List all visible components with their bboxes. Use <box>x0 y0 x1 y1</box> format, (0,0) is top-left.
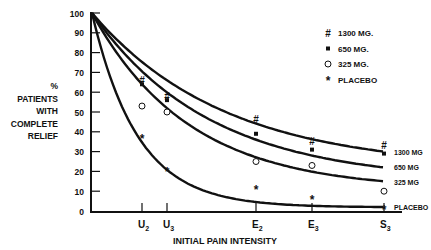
curve-labels: 1300 MG650 MG325 MGPLACEBO <box>394 149 429 211</box>
marker-asterisk: * <box>326 74 331 88</box>
marker-circle <box>139 103 145 109</box>
legend-label: 650 MG. <box>338 45 369 54</box>
marker-square <box>382 152 386 156</box>
curve-325-mg <box>92 13 383 181</box>
marker-hash: # <box>253 114 259 125</box>
svg-text:*: * <box>310 193 315 207</box>
svg-text:#: # <box>253 114 259 125</box>
svg-text:*: * <box>382 203 387 217</box>
marker-hash: # <box>309 136 315 147</box>
y-tick-label: 70 <box>75 68 85 78</box>
marker-hash: # <box>325 28 331 39</box>
pain-relief-chart: %PATIENTSWITHCOMPLETERELIEF 010203040506… <box>0 0 431 250</box>
curve-label: PLACEBO <box>394 204 429 211</box>
curve-label: 325 MG <box>394 179 419 186</box>
y-tick-label: 60 <box>75 88 85 98</box>
marker-circle <box>381 188 387 194</box>
marker-asterisk: * <box>382 203 387 217</box>
y-tick-label: 10 <box>75 187 85 197</box>
y-label-line: WITH <box>36 106 58 116</box>
y-tick-label: 50 <box>75 108 85 118</box>
y-tick-label: 20 <box>75 167 85 177</box>
x-tick-label: U3 <box>163 219 174 232</box>
svg-text:*: * <box>140 132 145 146</box>
marker-asterisk: * <box>140 132 145 146</box>
y-tick-label: 30 <box>75 147 85 157</box>
legend-label: 325 MG. <box>338 60 369 69</box>
legend: #1300 MG.650 MG.325 MG.*PLACEBO <box>325 28 377 88</box>
y-label-line: COMPLETE <box>11 119 59 129</box>
svg-text:*: * <box>326 74 331 88</box>
y-tick-label: 90 <box>75 28 85 38</box>
x-tick-label: E3 <box>308 219 319 232</box>
legend-label: 1300 MG. <box>338 29 373 38</box>
legend-label: PLACEBO <box>338 76 377 85</box>
svg-text:#: # <box>309 136 315 147</box>
marker-hash: # <box>381 140 387 151</box>
x-tick-label: S3 <box>380 219 391 232</box>
curve-label: 650 MG <box>394 164 419 171</box>
svg-text:*: * <box>165 165 170 179</box>
y-axis-ticks: 0102030405060708090100 <box>70 9 100 217</box>
svg-text:*: * <box>254 183 259 197</box>
marker-asterisk: * <box>310 193 315 207</box>
marker-circle <box>309 162 315 168</box>
fitted-curves <box>92 13 383 207</box>
marker-square <box>326 47 330 51</box>
y-tick-label: 80 <box>75 48 85 58</box>
y-tick-label: 40 <box>75 127 85 137</box>
svg-text:#: # <box>325 28 331 39</box>
x-tick-label: U2 <box>138 219 149 232</box>
marker-circle <box>164 109 170 115</box>
marker-circle <box>253 159 259 165</box>
marker-asterisk: * <box>165 165 170 179</box>
marker-asterisk: * <box>254 183 259 197</box>
curve-label: 1300 MG <box>394 149 423 156</box>
marker-square <box>310 148 314 152</box>
marker-square <box>165 98 169 102</box>
curve-placebo <box>92 13 383 207</box>
x-axis-label: INITIAL PAIN INTENSITY <box>173 236 277 246</box>
y-tick-label: 100 <box>70 9 84 19</box>
marker-square <box>140 82 144 86</box>
y-tick-label: 0 <box>79 207 84 217</box>
y-axis-label: %PATIENTSWITHCOMPLETERELIEF <box>11 81 59 141</box>
y-label-line: RELIEF <box>28 131 58 141</box>
marker-square <box>254 132 258 136</box>
marker-circle <box>325 61 331 67</box>
x-tick-label: E2 <box>252 219 263 232</box>
y-label-line: PATIENTS <box>17 94 58 104</box>
y-label-line: % <box>50 81 58 91</box>
svg-text:#: # <box>381 140 387 151</box>
